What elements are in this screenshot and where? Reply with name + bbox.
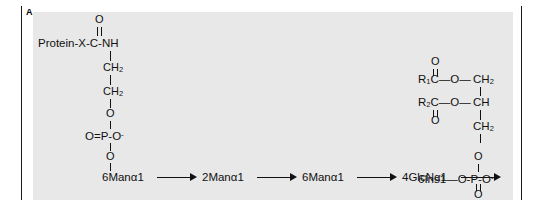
glycerol-carbon-1: CH2 xyxy=(473,74,494,87)
inositol-phosphate-oxygen-bottom: O xyxy=(474,189,483,200)
glycan-residue-5-inositol: 6Ins1—O-P-O- xyxy=(418,172,494,185)
panel-letter-label: A xyxy=(26,7,33,17)
amide-double-bond xyxy=(97,27,102,36)
inositol-po-upper-bond xyxy=(478,164,479,172)
glycan-residue-1: 6Manα1 xyxy=(102,172,144,183)
glycan-arrow-2 xyxy=(257,173,297,182)
r1-carbonyl-oxygen: O xyxy=(431,56,440,67)
inositol-phosphate-oxygen-top: O xyxy=(474,151,483,162)
phospho-ester-oxygen-lower: O xyxy=(106,151,115,162)
o-to-p-bond xyxy=(110,121,111,129)
figure-panel: O Protein-X-C-NH CH2 CH2 O O=P-O- O 6Man… xyxy=(33,12,513,200)
glycerol-carbon-2: CH xyxy=(473,97,490,108)
ch2-ch2-bond xyxy=(110,75,111,85)
amide-carbonyl-oxygen: O xyxy=(95,14,104,25)
r1-acyl-group: R1C—O— xyxy=(418,74,471,87)
ethanolamine-ch2-upper: CH2 xyxy=(103,62,123,75)
glycerol-carbon-3: CH2 xyxy=(473,121,494,134)
right-margin-rule xyxy=(521,6,522,200)
glycerol-c2-c3-bond xyxy=(480,110,481,120)
glycerol-c3-o-bond xyxy=(480,134,481,143)
o-to-mannose-bond xyxy=(110,163,111,171)
glycan-residue-3: 6Manα1 xyxy=(302,172,344,183)
phospho-ester-oxygen-upper: O xyxy=(106,108,115,119)
n-to-ch2-bond xyxy=(110,51,111,61)
glycan-residue-2: 2Manα1 xyxy=(202,172,244,183)
glycan-arrow-1 xyxy=(157,173,197,182)
glycan-arrow-3 xyxy=(357,173,397,182)
r2-acyl-group: R2C—O— xyxy=(418,97,471,110)
glycerol-c1-c2-bond xyxy=(480,87,481,96)
protein-x-c-nh-label: Protein-X-C-NH xyxy=(38,38,119,49)
r2-carbonyl-oxygen: O xyxy=(431,115,440,126)
left-margin-rule xyxy=(21,6,22,200)
ethanolamine-ch2-lower: CH2 xyxy=(103,86,123,99)
phosphodiester-group: O=P-O- xyxy=(85,129,124,142)
